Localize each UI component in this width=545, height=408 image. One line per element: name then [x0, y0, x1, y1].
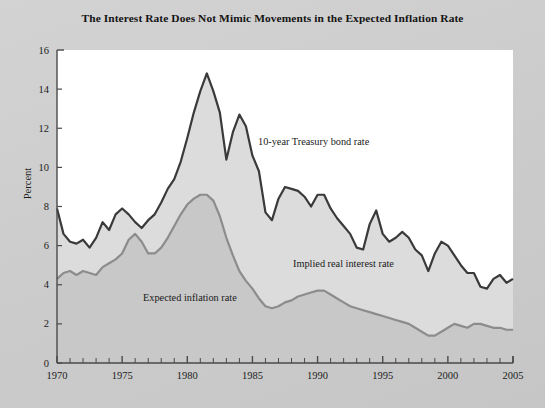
x-tick-label: 1990 [307, 370, 328, 381]
x-tick-label: 2000 [437, 370, 458, 381]
x-tick-label: 1975 [112, 370, 133, 381]
x-tick-label: 1985 [242, 370, 263, 381]
chart-figure: The Interest Rate Does Not Mimic Movemen… [0, 0, 545, 408]
chart-svg: 0246810121416197019751980198519901995200… [0, 0, 545, 408]
y-tick-label: 10 [39, 162, 50, 173]
y-axis-label: Percent [22, 154, 33, 214]
y-tick-label: 16 [39, 45, 50, 56]
annotation-implied-real-interest-rate: Implied real interest rate [293, 258, 394, 269]
y-tick-label: 12 [39, 123, 50, 134]
annotation-expected-inflation-rate: Expected inflation rate [143, 292, 237, 303]
y-tick-label: 2 [44, 318, 49, 329]
plot-area: 0246810121416197019751980198519901995200… [0, 0, 545, 408]
y-tick-label: 14 [39, 84, 50, 95]
y-tick-label: 0 [44, 358, 49, 369]
x-tick-label: 2005 [503, 370, 524, 381]
y-tick-label: 6 [44, 240, 49, 251]
annotation-treasury-bond-rate: 10-year Treasury bond rate [258, 136, 369, 147]
y-tick-label: 8 [44, 201, 49, 212]
y-tick-label: 4 [44, 279, 50, 290]
x-tick-label: 1995 [372, 370, 393, 381]
x-tick-label: 1980 [177, 370, 198, 381]
x-tick-label: 1970 [47, 370, 68, 381]
